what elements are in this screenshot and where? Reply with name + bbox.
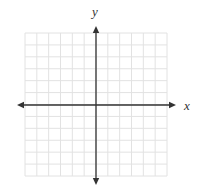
y-axis-down-arrow-icon	[93, 178, 99, 185]
coordinate-plane: y x	[0, 0, 197, 191]
x-axis-left-arrow-icon	[17, 102, 24, 108]
coordinate-grid-svg	[0, 0, 197, 191]
x-axis-label: x	[184, 99, 190, 112]
x-axis-right-arrow-icon	[169, 102, 176, 108]
y-axis-up-arrow-icon	[93, 26, 99, 33]
axes	[17, 26, 176, 185]
y-axis-label: y	[92, 5, 98, 18]
cropped-text-remnant	[0, 0, 197, 3]
